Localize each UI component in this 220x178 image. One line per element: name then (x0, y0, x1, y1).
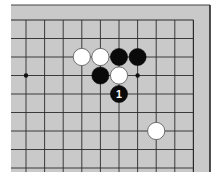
stone-circle (92, 67, 109, 84)
move-number-label: 1 (116, 88, 122, 100)
go-board[interactable]: 1 (0, 0, 220, 178)
white-stone[interactable] (92, 48, 109, 65)
stone-circle (73, 48, 90, 65)
white-stone[interactable] (73, 48, 90, 65)
stone-circle (110, 67, 127, 84)
star-point (135, 73, 139, 77)
stone-circle (129, 48, 146, 65)
white-stone[interactable] (110, 67, 127, 84)
black-stone[interactable] (129, 48, 146, 65)
black-stone[interactable] (110, 48, 127, 65)
stone-circle (110, 48, 127, 65)
black-stone[interactable] (92, 67, 109, 84)
stone-circle (148, 122, 165, 139)
stone-circle (92, 48, 109, 65)
board-background (11, 5, 210, 172)
black-stone-numbered[interactable]: 1 (110, 85, 127, 102)
star-point (24, 73, 28, 77)
white-stone[interactable] (148, 122, 165, 139)
